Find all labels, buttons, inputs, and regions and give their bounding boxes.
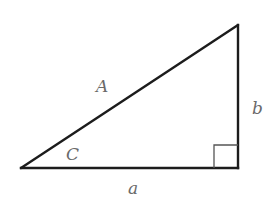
label-leg-b: b [252, 100, 263, 117]
label-angle-C: C [66, 146, 79, 163]
right-angle-marker [214, 145, 238, 168]
right-triangle-diagram [0, 0, 277, 208]
label-leg-a: a [128, 180, 138, 197]
side-A-hypotenuse [21, 25, 238, 168]
label-hypotenuse-A: A [96, 78, 108, 95]
